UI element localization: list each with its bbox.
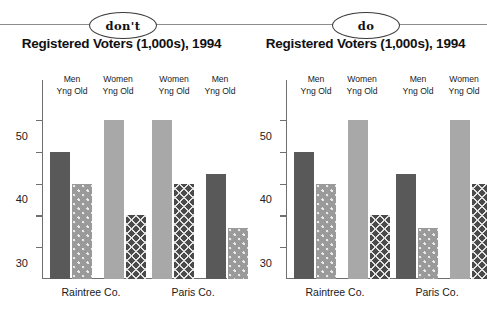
- header-age-label: Yng Old: [158, 86, 189, 96]
- header-labels-do: MenYng OldWomenYng OldMenYng OldWomenYng…: [286, 74, 476, 102]
- bar-raintree-co--men-old: [316, 184, 336, 279]
- header-age-label: Yng Old: [402, 86, 433, 96]
- y-tick-label: 50: [260, 130, 272, 142]
- bar-raintree-co--women-old: [370, 215, 390, 279]
- bar-raintree-co--men-yng: [50, 152, 70, 279]
- bar-paris-co--men-yng: [206, 174, 226, 279]
- y-axis-dont: [42, 80, 43, 279]
- y-tick-mark: 10: [36, 247, 43, 248]
- bar-raintree-co--men-yng: [294, 152, 314, 279]
- y-tick-mark: 40: [36, 152, 43, 153]
- bar-raintree-co--women-yng: [104, 120, 124, 279]
- bar-paris-co--men-yng: [396, 174, 416, 279]
- header-group-label: Men: [48, 74, 96, 86]
- header-age-label: Yng Old: [300, 86, 331, 96]
- header-group-label: Men: [196, 74, 244, 86]
- y-tick-mark: 20: [36, 215, 43, 216]
- badge-dont: don't: [89, 12, 157, 39]
- bar-paris-co--men-old: [418, 228, 438, 279]
- bar-raintree-co--women-yng: [348, 120, 368, 279]
- x-group-label: Paris Co.: [148, 286, 238, 298]
- header-label-block: MenYng Old: [196, 74, 244, 97]
- header-age-label: Yng Old: [346, 86, 377, 96]
- y-axis-do: [286, 80, 287, 279]
- x-group-label: Paris Co.: [392, 286, 482, 298]
- header-group-label: Women: [150, 74, 198, 86]
- header-label-block: MenYng Old: [292, 74, 340, 97]
- y-tick-label: 30: [260, 257, 272, 269]
- y-tick-label: 40: [16, 193, 28, 205]
- y-tick-mark: 50: [280, 120, 287, 121]
- bar-raintree-co--women-old: [126, 215, 146, 279]
- header-label-block: MenYng Old: [48, 74, 96, 97]
- y-tick-mark: 50: [36, 120, 43, 121]
- bar-raintree-co--men-old: [72, 184, 92, 279]
- bar-paris-co--women-yng: [450, 120, 470, 279]
- bar-paris-co--women-yng: [152, 120, 172, 279]
- x-group-label: Raintree Co.: [46, 286, 136, 298]
- chart-panel-dont: Registered Voters (1,000s), 1994 MenYng …: [0, 0, 243, 312]
- header-age-label: Yng Old: [204, 86, 235, 96]
- y-tick-label: 50: [16, 130, 28, 142]
- header-age-label: Yng Old: [448, 86, 479, 96]
- header-group-label: Women: [440, 74, 487, 86]
- y-tick-label: 40: [260, 193, 272, 205]
- header-label-block: WomenYng Old: [150, 74, 198, 97]
- header-label-block: WomenYng Old: [440, 74, 487, 97]
- figure-root: don't do Registered Voters (1,000s), 199…: [0, 0, 487, 312]
- header-age-label: Yng Old: [102, 86, 133, 96]
- y-tick-label: 30: [16, 257, 28, 269]
- plot-area-do: 1020304050Raintree Co.Paris Co.: [286, 104, 471, 279]
- chart-panel-do: Registered Voters (1,000s), 1994 MenYng …: [244, 0, 487, 312]
- header-group-label: Men: [292, 74, 340, 86]
- plot-area-dont: 1020304050Raintree Co.Paris Co.: [42, 104, 227, 279]
- header-labels-dont: MenYng OldWomenYng OldWomenYng OldMenYng…: [42, 74, 232, 102]
- header-group-label: Women: [94, 74, 142, 86]
- header-label-block: WomenYng Old: [94, 74, 142, 97]
- y-tick-mark: 10: [280, 247, 287, 248]
- bar-paris-co--women-old: [472, 184, 487, 279]
- y-tick-mark: 20: [280, 215, 287, 216]
- header-age-label: Yng Old: [56, 86, 87, 96]
- x-group-label: Raintree Co.: [290, 286, 380, 298]
- y-tick-mark: 30: [36, 184, 43, 185]
- badge-do: do: [332, 12, 400, 39]
- header-group-label: Women: [338, 74, 386, 86]
- header-label-block: MenYng Old: [394, 74, 442, 97]
- bar-paris-co--women-old: [174, 184, 194, 279]
- header-group-label: Men: [394, 74, 442, 86]
- header-label-block: WomenYng Old: [338, 74, 386, 97]
- y-tick-mark: 30: [280, 184, 287, 185]
- y-tick-mark: 40: [280, 152, 287, 153]
